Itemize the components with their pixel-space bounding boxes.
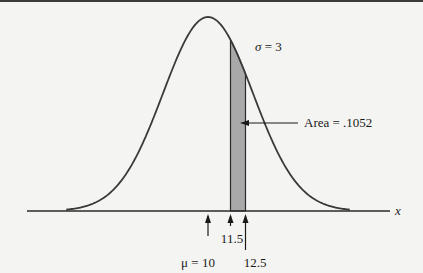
x-axis-label: x	[394, 203, 401, 218]
sigma-annotation: σ = 3	[255, 39, 282, 54]
marker-arrow-head	[228, 214, 234, 223]
marker-label: 12.5	[244, 255, 267, 270]
marker-label: μ = 10	[181, 255, 215, 270]
marker-10: μ = 10	[181, 214, 215, 270]
shaded-area	[231, 40, 246, 211]
marker-11-5: 11.5	[221, 214, 243, 246]
normal-curve-diagram: x μ = 1011.512.5 σ = 3 Area = .1052	[0, 0, 423, 273]
marker-12-5: 12.5	[243, 214, 267, 270]
marker-label: 11.5	[221, 231, 243, 246]
marker-arrow-head	[243, 214, 249, 223]
area-annotation: Area = .1052	[240, 115, 372, 130]
normal-curve	[66, 17, 350, 210]
normal-distribution-figure: x μ = 1011.512.5 σ = 3 Area = .1052	[0, 0, 423, 273]
area-label: Area = .1052	[304, 115, 372, 130]
marker-arrow-head	[205, 214, 211, 223]
